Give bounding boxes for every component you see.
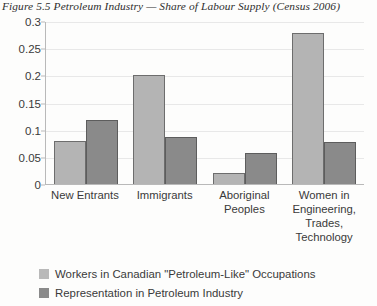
bar-group: [126, 22, 206, 184]
x-axis-category-label: Immigrants: [125, 188, 205, 244]
bar-group: [46, 22, 126, 184]
bar-group: [205, 22, 285, 184]
figure-title: Figure 5.5 Petroleum Industry — Share of…: [2, 0, 375, 13]
legend-swatch: [39, 288, 49, 298]
y-axis-tick-label: 0.25: [19, 43, 41, 55]
bar[interactable]: [86, 120, 118, 184]
bar[interactable]: [245, 153, 277, 184]
x-axis-category-label: Women inEngineering,Trades,Technology: [284, 188, 364, 244]
plot-area: [45, 22, 364, 185]
y-axis-tick-label: 0.1: [25, 125, 41, 137]
figure-container: Figure 5.5 Petroleum Industry — Share of…: [0, 0, 377, 306]
legend-item[interactable]: Workers in Canadian "Petroleum-Like" Occ…: [39, 264, 316, 283]
x-axis-category-label: New Entrants: [45, 188, 125, 244]
x-axis-category-label: AboriginalPeoples: [205, 188, 285, 244]
legend-swatch: [39, 269, 49, 279]
bar-group: [285, 22, 365, 184]
bar[interactable]: [292, 33, 324, 184]
bar-groups: [46, 22, 364, 184]
y-axis-tick-label: 0.05: [19, 152, 41, 164]
bar[interactable]: [324, 142, 356, 184]
bar[interactable]: [213, 173, 245, 184]
legend-item[interactable]: Representation in Petroleum Industry: [39, 283, 316, 302]
legend-label: Workers in Canadian "Petroleum-Like" Occ…: [55, 268, 316, 280]
legend: Workers in Canadian "Petroleum-Like" Occ…: [39, 264, 316, 302]
bar[interactable]: [133, 75, 165, 184]
x-axis-category-labels: New EntrantsImmigrantsAboriginalPeoplesW…: [45, 188, 364, 244]
y-axis-tick-label: 0.15: [19, 98, 41, 110]
y-axis-tick-label: 0.2: [25, 70, 41, 82]
bar[interactable]: [54, 141, 86, 184]
y-axis: 00.050.10.150.20.250.3: [0, 22, 41, 185]
legend-label: Representation in Petroleum Industry: [55, 287, 243, 299]
y-axis-tick-label: 0.3: [25, 16, 41, 28]
bar[interactable]: [165, 137, 197, 184]
